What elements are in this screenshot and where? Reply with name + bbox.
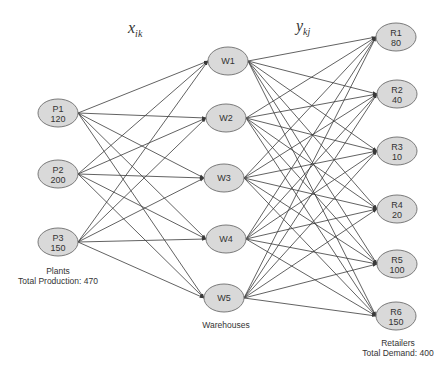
network-diagram: xik ykj P1120P2200P3150 W1W2W3W4W5 R180R… <box>0 0 445 371</box>
node-value: 150 <box>388 317 403 327</box>
edge-p3-w3 <box>78 178 204 242</box>
retailers-caption: Retailers <box>381 338 415 348</box>
edge-w5-r3 <box>244 151 377 298</box>
node-id: W5 <box>217 293 231 303</box>
edge-w3-r4 <box>244 178 377 209</box>
edge-w4-r4 <box>246 209 377 239</box>
y-kj-label: ykj <box>294 17 311 37</box>
edge-p3-w2 <box>78 118 206 242</box>
warehouse-retailer-edges <box>244 37 377 316</box>
node-id: P2 <box>52 165 63 175</box>
edge-w2-r5 <box>246 118 377 264</box>
plant-warehouse-edges <box>78 61 208 298</box>
node-value: 40 <box>392 95 402 105</box>
edge-w5-r2 <box>244 94 377 298</box>
node-p1: P1120 <box>38 99 78 127</box>
node-r4: R420 <box>377 195 417 223</box>
node-r6: R6150 <box>376 302 416 330</box>
node-id: R6 <box>390 307 402 317</box>
node-w4: W4 <box>206 225 246 253</box>
edge-p3-w1 <box>78 61 208 242</box>
node-w3: W3 <box>204 164 244 192</box>
edge-p2-w2 <box>78 118 206 174</box>
node-id: P1 <box>52 104 63 114</box>
x-ik-label: xik <box>127 19 143 39</box>
node-r3: R310 <box>377 137 417 165</box>
edge-w4-r1 <box>246 37 376 239</box>
edge-w2-r3 <box>246 118 377 151</box>
node-value: 100 <box>389 265 404 275</box>
node-id: P3 <box>52 233 63 243</box>
node-value: 200 <box>50 175 65 185</box>
node-w2: W2 <box>206 104 246 132</box>
node-id: R4 <box>391 200 403 210</box>
edge-w3-r6 <box>244 178 376 316</box>
node-p2: P2200 <box>38 160 78 188</box>
node-id: R5 <box>391 255 403 265</box>
node-id: W2 <box>219 113 233 123</box>
warehouses-caption: Warehouses <box>202 320 249 330</box>
node-value: 150 <box>50 243 65 253</box>
edge-w5-r1 <box>244 37 376 298</box>
node-value: 120 <box>50 114 65 124</box>
plant-nodes: P1120P2200P3150 <box>38 99 78 256</box>
edge-p1-w2 <box>78 113 206 118</box>
edge-p1-w1 <box>78 61 208 113</box>
node-w1: W1 <box>208 47 248 75</box>
edge-p2-w4 <box>78 174 206 239</box>
edge-p1-w3 <box>78 113 204 178</box>
node-value: 20 <box>392 210 402 220</box>
plants-caption: Plants <box>46 266 70 276</box>
node-id: W1 <box>221 56 235 66</box>
edge-w5-r5 <box>244 264 377 298</box>
node-r5: R5100 <box>377 250 417 278</box>
node-r2: R240 <box>377 80 417 108</box>
retailer-nodes: R180R240R310R420R5100R6150 <box>376 23 417 330</box>
node-id: R2 <box>391 85 403 95</box>
node-p3: P3150 <box>38 228 78 256</box>
retailers-total-demand: Total Demand: 400 <box>362 348 434 358</box>
warehouse-nodes: W1W2W3W4W5 <box>204 47 248 312</box>
node-id: R1 <box>390 28 402 38</box>
edge-w5-r4 <box>244 209 377 298</box>
node-id: W4 <box>219 234 233 244</box>
node-value: 80 <box>391 38 401 48</box>
node-id: W3 <box>217 173 231 183</box>
plants-total-production: Total Production: 470 <box>18 276 98 286</box>
node-w5: W5 <box>204 284 244 312</box>
edge-p3-w4 <box>78 239 206 242</box>
node-value: 10 <box>392 152 402 162</box>
edge-w5-r6 <box>244 298 376 316</box>
node-id: R3 <box>391 142 403 152</box>
node-r1: R180 <box>376 23 416 51</box>
